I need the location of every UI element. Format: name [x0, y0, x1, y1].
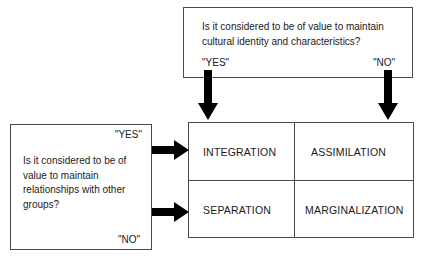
acculturation-matrix: INTEGRATION ASSIMILATION SEPARATION MARG…: [188, 122, 414, 238]
left-question-no-label: "NO": [118, 234, 140, 245]
left-question-text: Is it considered to be of value to maint…: [23, 154, 141, 212]
matrix-cell-marginalization: MARGINALIZATION: [295, 181, 415, 239]
top-question-yes-label: "YES": [202, 57, 229, 68]
top-question-box: Is it considered to be of value to maint…: [183, 7, 413, 78]
matrix-cell-separation: SEPARATION: [189, 181, 294, 239]
left-question-yes-label: "YES": [115, 129, 142, 140]
arrow-down-no-icon: [378, 70, 398, 122]
left-question-box: Is it considered to be of value to maint…: [10, 124, 152, 250]
top-question-no-label: "NO": [373, 57, 395, 68]
diagram-canvas: Is it considered to be of value to maint…: [0, 0, 425, 262]
arrow-right-no-icon: [152, 202, 190, 222]
matrix-cell-assimilation: ASSIMILATION: [295, 123, 415, 180]
top-question-text: Is it considered to be of value to maint…: [202, 19, 402, 49]
arrow-right-yes-icon: [152, 140, 190, 160]
arrow-down-yes-icon: [198, 70, 218, 122]
matrix-cell-integration: INTEGRATION: [189, 123, 294, 180]
